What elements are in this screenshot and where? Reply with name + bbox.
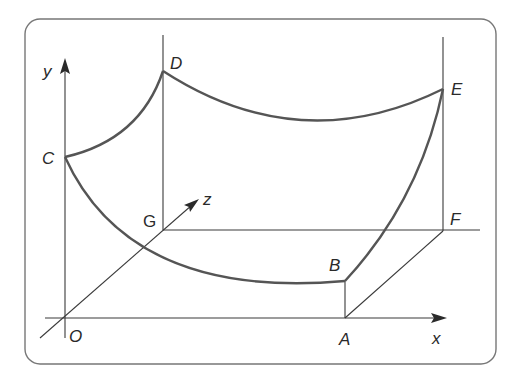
point-label-a: A [338, 330, 350, 349]
edge-a-f [345, 231, 443, 318]
point-label-f: F [450, 210, 462, 229]
point-label-b: B [329, 256, 340, 275]
curve-c-d [65, 71, 163, 157]
point-label-g: G [143, 212, 156, 231]
point-label-o: O [69, 327, 82, 346]
z-axis-label: z [202, 190, 212, 209]
curve-c-b [65, 157, 345, 283]
x-axis-label: x [431, 329, 441, 348]
curve-d-e [163, 71, 443, 121]
point-label-e: E [451, 80, 463, 99]
frame-border [25, 19, 496, 364]
point-label-c: C [42, 149, 55, 168]
diagram-canvas: y z x O A B C D E F G [0, 0, 516, 384]
point-label-d: D [170, 54, 182, 73]
y-axis-label: y [42, 62, 53, 81]
